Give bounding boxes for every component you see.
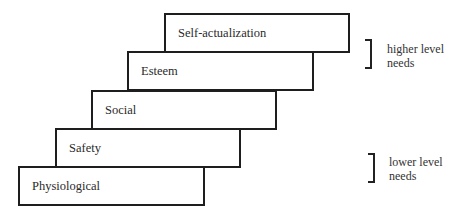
step-safety: Safety <box>55 128 241 168</box>
step-label: Self-actualization <box>178 26 266 41</box>
step-label: Physiological <box>32 179 100 194</box>
step-physiological: Physiological <box>18 166 205 206</box>
higher-level-bracket <box>365 39 372 69</box>
lower-level-bracket <box>368 153 375 183</box>
higher-level-note: higher level needs <box>387 42 444 70</box>
step-social: Social <box>91 90 277 130</box>
lower-level-line1: lower level <box>389 155 443 169</box>
lower-level-line2: needs <box>389 169 443 183</box>
higher-level-line1: higher level <box>387 42 444 56</box>
higher-level-line2: needs <box>387 56 444 70</box>
lower-level-note: lower level needs <box>389 155 443 183</box>
step-label: Esteem <box>141 64 178 79</box>
step-label: Safety <box>69 141 101 156</box>
step-esteem: Esteem <box>127 51 314 91</box>
step-label: Social <box>105 103 136 118</box>
step-self-actualization: Self-actualization <box>164 13 350 53</box>
